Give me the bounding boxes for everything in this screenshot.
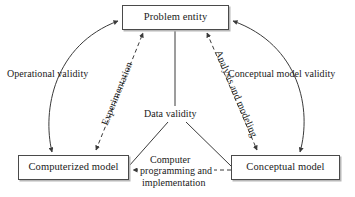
label-computer-programming-line-2: programming and bbox=[138, 165, 214, 176]
diagram-canvas: Problem entity Computerized model Concep… bbox=[0, 0, 355, 197]
edge-operational-validity bbox=[49, 21, 118, 152]
label-conceptual-model-validity: Conceptual model validity bbox=[228, 68, 335, 79]
label-computer-programming-line-3: implementation bbox=[140, 177, 207, 188]
label-data-validity: Data validity bbox=[144, 108, 197, 119]
node-computerized-model-label: Computerized model bbox=[28, 162, 118, 173]
node-problem-entity[interactable]: Problem entity bbox=[122, 5, 229, 30]
edge-conceptual-model-validity bbox=[233, 21, 304, 152]
node-conceptual-model[interactable]: Conceptual model bbox=[231, 155, 340, 180]
node-conceptual-model-label: Conceptual model bbox=[246, 162, 324, 173]
label-computer-programming-line-1: Computer bbox=[148, 154, 192, 165]
label-operational-validity: Operational validity bbox=[7, 68, 88, 79]
node-computerized-model[interactable]: Computerized model bbox=[18, 155, 129, 180]
edge-data-validity-right-branch bbox=[186, 122, 231, 166]
node-problem-entity-label: Problem entity bbox=[144, 12, 208, 23]
